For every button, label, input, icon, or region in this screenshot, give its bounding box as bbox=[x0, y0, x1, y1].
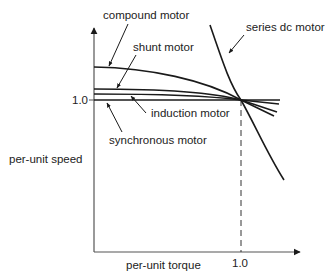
compound-pointer bbox=[109, 24, 128, 66]
y-axis-label: per-unit speed bbox=[9, 154, 83, 166]
compound-motor-label: compound motor bbox=[103, 10, 189, 22]
x-tick-label: 1.0 bbox=[232, 258, 248, 270]
x-axis-label: per-unit torque bbox=[126, 260, 201, 272]
synchronous-motor-label: synchronous motor bbox=[109, 135, 207, 147]
shunt-pointer bbox=[117, 55, 136, 88]
induction-pointer bbox=[131, 96, 146, 113]
y-tick-label: 1.0 bbox=[72, 95, 88, 107]
series-dc-pointer bbox=[229, 35, 244, 53]
shunt-motor-label: shunt motor bbox=[133, 42, 194, 54]
synchronous-pointer bbox=[107, 103, 122, 132]
induction-motor-label: induction motor bbox=[151, 108, 230, 120]
induction-curve bbox=[94, 94, 279, 104]
series-dc-motor-label: series dc motor bbox=[246, 22, 325, 34]
